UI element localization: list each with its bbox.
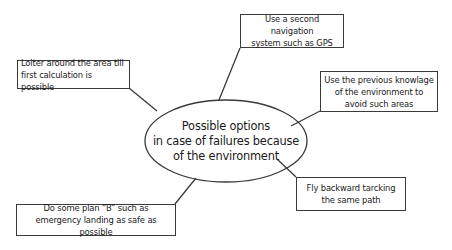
option-fly-back: Fly backward tarcking the same path <box>296 177 406 211</box>
option-gps: Use a second navigation system such as G… <box>240 14 344 48</box>
option-knowledge-label: Use the previous knowlage of the environ… <box>324 74 434 110</box>
option-loiter-label: Loiter around the area till first calcul… <box>21 57 126 93</box>
option-plan-b-label: Do some plan “B” such as emergency landi… <box>20 202 172 238</box>
option-plan-b: Do some plan “B” such as emergency landi… <box>16 204 176 236</box>
center-topic-label: Possible options in case of failures bec… <box>153 119 299 164</box>
option-loiter: Loiter around the area till first calcul… <box>17 60 130 89</box>
option-knowledge: Use the previous knowlage of the environ… <box>320 71 438 112</box>
option-gps-label: Use a second navigation system such as G… <box>244 13 340 49</box>
option-fly-back-label: Fly backward tarcking the same path <box>307 182 396 206</box>
connector-gps <box>219 48 240 100</box>
center-topic: Possible options in case of failures bec… <box>145 101 307 182</box>
